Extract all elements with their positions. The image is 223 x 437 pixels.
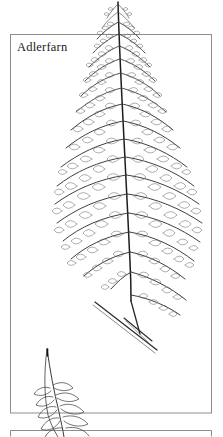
fern-illustration: [0, 0, 223, 437]
illustration-page: Adlerfarn: [0, 0, 223, 437]
plate-label: Adlerfarn: [17, 40, 67, 54]
paper-background: [0, 0, 223, 437]
